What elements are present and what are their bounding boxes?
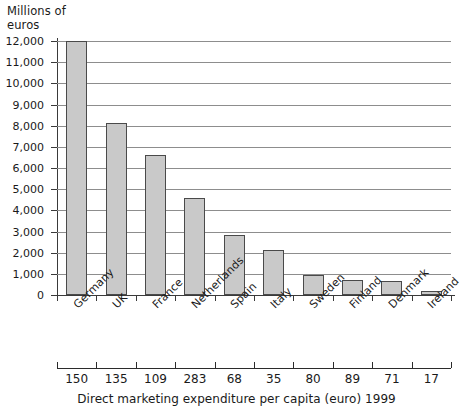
x-axis-tick bbox=[96, 295, 97, 301]
y-axis-tick-label: 1,000 bbox=[13, 267, 45, 280]
per-capita-tick bbox=[215, 362, 216, 368]
per-capita-tick bbox=[333, 362, 334, 368]
gridline bbox=[57, 105, 451, 106]
gridline bbox=[57, 62, 451, 63]
per-capita-tick bbox=[254, 362, 255, 368]
per-capita-value: 109 bbox=[144, 372, 167, 386]
x-axis-tick bbox=[372, 295, 373, 301]
y-axis-tick-label: 8,000 bbox=[13, 119, 45, 132]
x-axis-tick bbox=[293, 295, 294, 301]
per-capita-value: 150 bbox=[65, 372, 88, 386]
x-axis-tick bbox=[333, 295, 334, 301]
per-capita-tick bbox=[372, 362, 373, 368]
x-axis-caption: Direct marketing expenditure per capita … bbox=[0, 392, 473, 406]
bar bbox=[184, 198, 205, 295]
per-capita-tick bbox=[451, 362, 452, 368]
x-axis-tick bbox=[215, 295, 216, 301]
per-capita-value: 35 bbox=[266, 372, 281, 386]
per-capita-value: 89 bbox=[345, 372, 360, 386]
bar-chart: Millions of euros 12,00011,00010,0009,00… bbox=[0, 0, 473, 414]
per-capita-value: 135 bbox=[105, 372, 128, 386]
y-axis-tick-label: 6,000 bbox=[13, 162, 45, 175]
per-capita-tick bbox=[136, 362, 137, 368]
per-capita-tick bbox=[57, 362, 58, 368]
x-axis-tick bbox=[57, 295, 58, 301]
y-axis-tick-label: 9,000 bbox=[13, 98, 45, 111]
per-capita-value: 68 bbox=[227, 372, 242, 386]
per-capita-value: 80 bbox=[305, 372, 320, 386]
y-axis-tick-label: 10,000 bbox=[6, 77, 45, 90]
per-capita-tick bbox=[96, 362, 97, 368]
y-axis-tick-label: 4,000 bbox=[13, 204, 45, 217]
x-axis-tick bbox=[175, 295, 176, 301]
per-capita-tick bbox=[412, 362, 413, 368]
per-capita-value: 71 bbox=[384, 372, 399, 386]
y-axis-tick-label: 11,000 bbox=[6, 56, 45, 69]
x-axis-tick bbox=[412, 295, 413, 301]
x-axis-tick bbox=[254, 295, 255, 301]
y-axis-tick-label: 0 bbox=[37, 289, 44, 302]
x-axis-tick bbox=[136, 295, 137, 301]
per-capita-value: 17 bbox=[424, 372, 439, 386]
per-capita-tick bbox=[293, 362, 294, 368]
x-axis-tick bbox=[451, 295, 452, 301]
y-axis-tick-label: 3,000 bbox=[13, 225, 45, 238]
bar bbox=[145, 155, 166, 295]
y-axis-tick-label: 2,000 bbox=[13, 246, 45, 259]
y-axis-tick-label: 5,000 bbox=[13, 183, 45, 196]
per-capita-value: 283 bbox=[183, 372, 206, 386]
y-axis-title: Millions of euros bbox=[7, 5, 97, 32]
y-axis-tick-label: 7,000 bbox=[13, 140, 45, 153]
bar bbox=[66, 41, 87, 295]
gridline bbox=[57, 83, 451, 84]
per-capita-axis-line bbox=[57, 368, 451, 369]
per-capita-tick bbox=[175, 362, 176, 368]
plot-area bbox=[57, 41, 451, 295]
y-axis-tick-label: 12,000 bbox=[6, 35, 45, 48]
gridline bbox=[57, 41, 451, 42]
